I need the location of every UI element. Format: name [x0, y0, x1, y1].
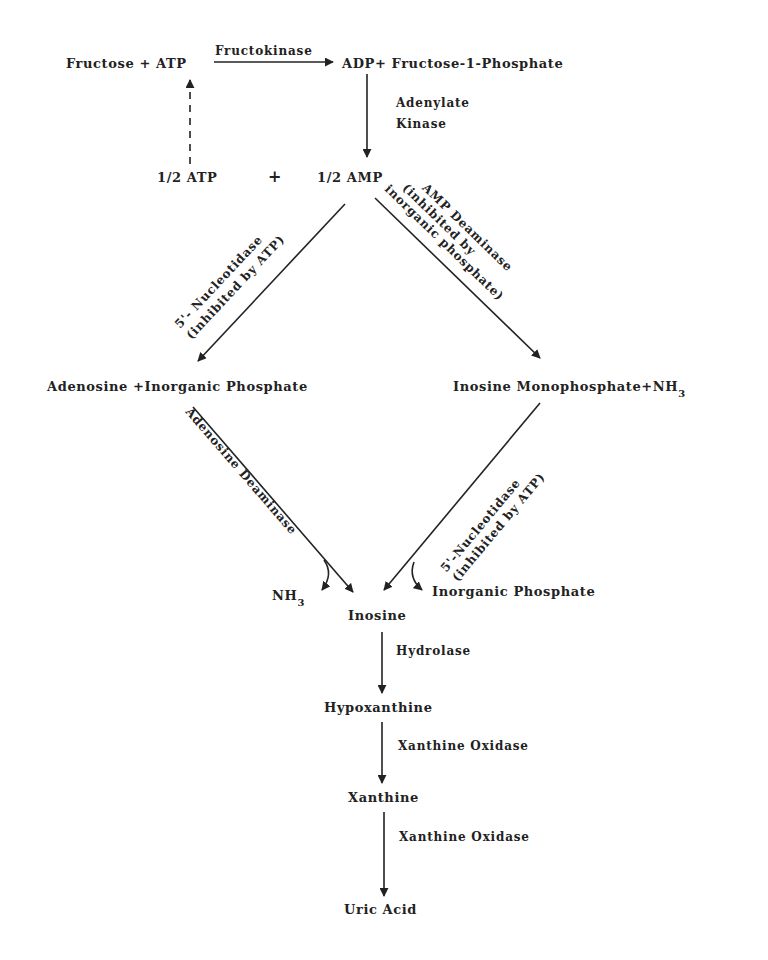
- node-imp-nh3: Inosine Monophosphate+NH3: [453, 379, 686, 399]
- pathway-diagram: Fructose + ATP Fructokinase ADP+ Fructos…: [0, 0, 768, 960]
- arrow-phosphate-release: [412, 562, 422, 590]
- enzyme-fructokinase: Fructokinase: [215, 44, 313, 58]
- arrow-nh3-release: [322, 560, 329, 590]
- enzyme-xanthine-oxidase-1: Xanthine Oxidase: [398, 739, 529, 753]
- node-xanthine: Xanthine: [348, 790, 419, 805]
- enzyme-nucleotidase-left-line1: 5'- Nucleotidase: [172, 232, 265, 331]
- enzyme-adenosine-deaminase: Adenosine Deaminase: [182, 404, 300, 537]
- enzyme-xanthine-oxidase-2: Xanthine Oxidase: [399, 830, 530, 844]
- node-uric-acid: Uric Acid: [344, 902, 417, 917]
- node-inosine: Inosine: [348, 608, 406, 623]
- enzyme-nucleotidase-right-line1: 5'-Nucleotidase: [438, 476, 524, 575]
- node-adp-f1p: ADP+ Fructose-1-Phosphate: [341, 56, 563, 71]
- node-half-atp: 1/2 ATP: [157, 170, 217, 185]
- enzyme-adenylate-kinase-line1: Adenylate: [395, 96, 470, 110]
- node-hypoxanthine: Hypoxanthine: [324, 700, 433, 715]
- enzyme-nucleotidase-right-line2: (inhibited by ATP): [449, 470, 548, 584]
- node-half-amp: 1/2 AMP: [317, 170, 383, 185]
- node-fructose-atp: Fructose + ATP: [66, 56, 187, 71]
- node-nh3: NH3: [272, 588, 305, 608]
- enzyme-adenylate-kinase-line2: Kinase: [396, 117, 447, 131]
- node-adenosine-pi: Adenosine +Inorganic Phosphate: [46, 379, 308, 394]
- enzyme-hydrolase: Hydrolase: [396, 644, 471, 658]
- node-inorganic-phosphate: Inorganic Phosphate: [432, 584, 595, 599]
- enzyme-nucleotidase-left-line2: (inhibited by ATP): [184, 232, 288, 342]
- plus-sign: +: [268, 167, 282, 186]
